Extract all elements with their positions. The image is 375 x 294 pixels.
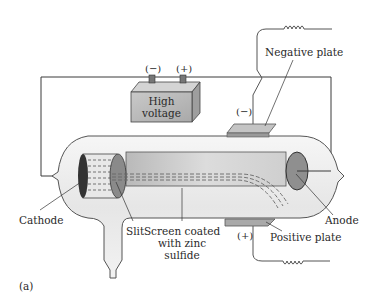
- negative-plate: [227, 124, 276, 137]
- battery-negative-sign: (−): [145, 63, 161, 75]
- figure-label: (a): [19, 280, 33, 292]
- battery-terminal-negative: [149, 75, 155, 83]
- positive-plate-sign: (+): [237, 230, 253, 242]
- negative-plate-sign: (−): [236, 106, 252, 118]
- battery-label-line1: High: [131, 95, 192, 107]
- cathode-label: Cathode: [19, 214, 64, 226]
- screen-label-line3: sulfide: [142, 249, 222, 261]
- anode-label: Anode: [325, 214, 359, 226]
- battery-positive-sign: (+): [176, 63, 192, 75]
- slit-disc: [110, 154, 126, 198]
- screen-label-line2: with zinc: [142, 237, 222, 249]
- negative-plate-label: Negative plate: [265, 46, 343, 58]
- zinc-sulfide-screen: [126, 152, 286, 186]
- battery-terminal-positive: [180, 75, 186, 83]
- screen-label-line1: Screen coated: [142, 225, 222, 237]
- positive-plate-label: Positive plate: [270, 231, 342, 243]
- battery-label-line2: voltage: [131, 107, 192, 119]
- negative-plate-wire: [253, 26, 332, 125]
